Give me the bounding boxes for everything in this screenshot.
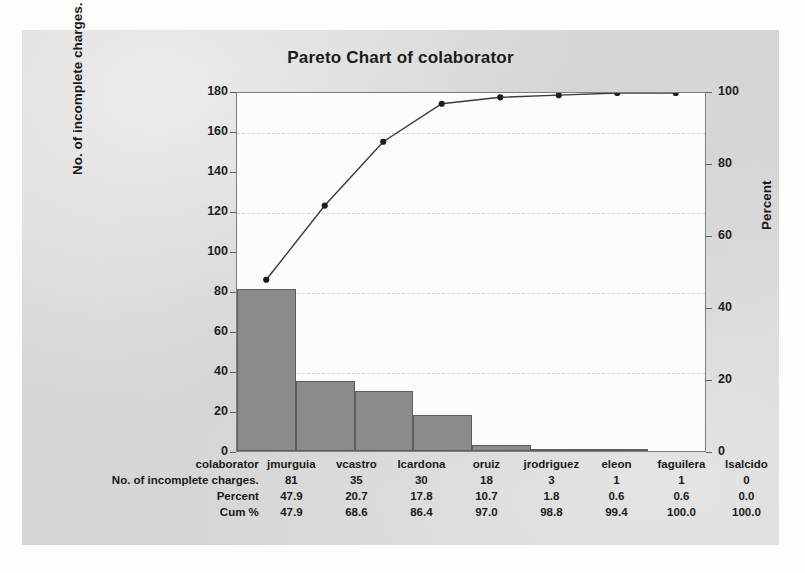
table-row-label: No. of incomplete charges. xyxy=(22,472,259,488)
y-axis-left-tick-label: 160 xyxy=(22,124,228,138)
table-cell: oruiz xyxy=(454,456,519,472)
table-cell: jmurguia xyxy=(259,456,324,472)
cumulative-line-marker xyxy=(322,202,328,208)
table-cell: 35 xyxy=(324,472,389,488)
table-cell: 47.9 xyxy=(259,488,324,504)
chart-figure: Pareto Chart of colaborator No. of incom… xyxy=(22,30,779,545)
cumulative-line-marker xyxy=(556,93,562,98)
table-cell: eleon xyxy=(584,456,649,472)
y-axis-right-tick-mark xyxy=(706,308,712,309)
table-cell: lcardona xyxy=(389,456,454,472)
y-axis-left-tick-label: 80 xyxy=(22,284,228,298)
table-cell: 81 xyxy=(259,472,324,488)
table-cell: 100.0 xyxy=(649,504,714,520)
cumulative-line-marker xyxy=(439,101,445,107)
table-cell: 1 xyxy=(584,472,649,488)
y-axis-right-tick-mark xyxy=(706,236,712,237)
cumulative-line-marker xyxy=(614,93,620,96)
data-table-grid: colaboratorjmurguiavcastrolcardonaoruizj… xyxy=(22,456,779,520)
table-cell: 1.8 xyxy=(519,488,584,504)
cumulative-line-series xyxy=(237,93,705,451)
table-cell: 0.6 xyxy=(649,488,714,504)
data-table: colaboratorjmurguiavcastrolcardonaoruizj… xyxy=(22,456,779,520)
y-axis-right-tick-mark xyxy=(706,452,712,453)
table-cell: 10.7 xyxy=(454,488,519,504)
y-axis-left-tick-label: 40 xyxy=(22,364,228,378)
table-row: Percent47.920.717.810.71.80.60.60.0 xyxy=(22,488,779,504)
y-axis-left-tick-mark xyxy=(230,452,236,453)
cumulative-line-marker xyxy=(263,277,269,283)
y-axis-right-tick-mark xyxy=(706,92,712,93)
y-axis-right-tick-mark xyxy=(706,164,712,165)
table-cell: 86.4 xyxy=(389,504,454,520)
table-row-label: colaborator xyxy=(22,456,259,472)
table-cell: 18 xyxy=(454,472,519,488)
table-cell: 20.7 xyxy=(324,488,389,504)
y-axis-right-tick-label: 80 xyxy=(718,156,732,170)
table-cell: 30 xyxy=(389,472,454,488)
table-cell: 1 xyxy=(649,472,714,488)
y-axis-left-tick-label: 20 xyxy=(22,404,228,418)
y-axis-right-label: Percent xyxy=(759,180,774,230)
y-axis-right-tick-label: 40 xyxy=(718,300,732,314)
y-axis-right-tick-label: 60 xyxy=(718,228,732,242)
table-cell: 3 xyxy=(519,472,584,488)
table-cell: 0.0 xyxy=(714,488,779,504)
cumulative-line-marker xyxy=(673,93,679,96)
y-axis-left-tick-label: 140 xyxy=(22,164,228,178)
table-cell: 99.4 xyxy=(584,504,649,520)
y-axis-right-tick-label: 20 xyxy=(718,372,732,386)
table-cell: 100.0 xyxy=(714,504,779,520)
cumulative-line-marker xyxy=(497,94,503,100)
cumulative-line-marker xyxy=(380,139,386,145)
table-cell: 98.8 xyxy=(519,504,584,520)
table-cell: 97.0 xyxy=(454,504,519,520)
y-axis-left-tick-label: 100 xyxy=(22,244,228,258)
table-row: colaboratorjmurguiavcastrolcardonaoruizj… xyxy=(22,456,779,472)
chart-title: Pareto Chart of colaborator xyxy=(22,48,779,68)
table-cell: lsalcido xyxy=(714,456,779,472)
table-cell: vcastro xyxy=(324,456,389,472)
table-cell: jrodriguez xyxy=(519,456,584,472)
table-row: No. of incomplete charges.813530183110 xyxy=(22,472,779,488)
table-row-label: Percent xyxy=(22,488,259,504)
table-row-label: Cum % xyxy=(22,504,259,520)
table-cell: 0 xyxy=(714,472,779,488)
table-cell: faguilera xyxy=(649,456,714,472)
y-axis-left-tick-label: 120 xyxy=(22,204,228,218)
table-row: Cum %47.968.686.497.098.899.4100.0100.0 xyxy=(22,504,779,520)
y-axis-left-tick-label: 180 xyxy=(22,84,228,98)
plot-area xyxy=(236,92,706,452)
table-cell: 0.6 xyxy=(584,488,649,504)
y-axis-left-tick-label: 60 xyxy=(22,324,228,338)
y-axis-right-tick-mark xyxy=(706,380,712,381)
cumulative-line xyxy=(266,93,675,280)
table-cell: 17.8 xyxy=(389,488,454,504)
y-axis-right-tick-label: 100 xyxy=(718,84,739,98)
table-cell: 47.9 xyxy=(259,504,324,520)
plot-area-wrapper xyxy=(236,92,706,452)
table-cell: 68.6 xyxy=(324,504,389,520)
